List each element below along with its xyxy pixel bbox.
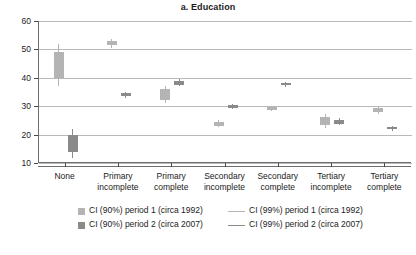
x-axis-tick-label: None: [38, 171, 91, 182]
x-axis-tick: [225, 163, 226, 167]
data-marker: [54, 21, 64, 163]
x-axis-tick: [118, 163, 119, 167]
y-axis-tick: [34, 135, 38, 136]
y-axis-tick: [34, 21, 38, 22]
y-axis-tick-label: 50: [11, 44, 31, 54]
gridline: [39, 78, 412, 79]
ci90-box: [107, 41, 117, 46]
data-marker: [228, 21, 238, 163]
x-axis-tick: [384, 163, 385, 167]
y-axis-tick-label: 30: [11, 101, 31, 111]
ci90-box: [68, 135, 78, 152]
gridline: [39, 21, 412, 22]
x-axis-tick-label: Tertiary complete: [358, 171, 411, 193]
legend-row: CI (90%) period 1 (circa 1992)CI (99%) p…: [0, 205, 416, 219]
data-marker: [334, 21, 344, 163]
x-axis-tick-label: Primary complete: [145, 171, 198, 193]
data-marker: [320, 21, 330, 163]
chart-title: a. Education: [0, 2, 416, 12]
x-axis-tick: [65, 163, 66, 167]
legend-label: CI (90%) period 2 (circa 2007): [89, 219, 203, 229]
ci90-box: [121, 93, 131, 96]
data-marker: [214, 21, 224, 163]
data-marker: [267, 21, 277, 163]
ci90-box: [281, 83, 291, 85]
data-marker: [373, 21, 383, 163]
plot-area: [38, 21, 411, 163]
ci90-box: [214, 122, 224, 126]
legend-label: CI (90%) period 1 (circa 1992): [89, 205, 203, 215]
x-axis-tick: [278, 163, 279, 167]
legend-swatch-icon: [78, 222, 85, 229]
data-marker: [174, 21, 184, 163]
y-axis-tick: [34, 163, 38, 164]
legend-swatch-icon: [78, 208, 85, 215]
y-axis-tick-label: 10: [11, 158, 31, 168]
legend-row: CI (90%) period 2 (circa 2007)CI (99%) p…: [0, 219, 416, 233]
x-axis-tick-label: Tertiary incomplete: [304, 171, 357, 193]
ci90-box: [160, 89, 170, 100]
ci90-box: [320, 117, 330, 125]
y-axis-tick: [34, 49, 38, 50]
data-marker: [68, 21, 78, 163]
ci90-box: [373, 108, 383, 112]
ci90-box: [334, 120, 344, 124]
gridline: [39, 135, 412, 136]
x-axis-tick: [171, 163, 172, 167]
y-axis-tick-label: 20: [11, 130, 31, 140]
y-axis-tick-label: 40: [11, 73, 31, 83]
y-axis-tick-label: 60: [11, 16, 31, 26]
gridline: [39, 106, 412, 107]
ci90-box: [267, 107, 277, 110]
data-marker: [107, 21, 117, 163]
x-axis-tick-label: Primary incomplete: [91, 171, 144, 193]
legend-line-icon: [228, 225, 245, 226]
x-axis-tick-label: Secondary complete: [251, 171, 304, 193]
ci90-box: [387, 127, 397, 129]
legend-label: CI (99%) period 2 (circa 2007): [249, 219, 363, 229]
data-marker: [387, 21, 397, 163]
chart-figure: a. Education Percent 102030405060 NonePr…: [0, 0, 416, 255]
ci90-box: [174, 81, 184, 85]
chart-legend: CI (90%) period 1 (circa 1992)CI (99%) p…: [0, 205, 416, 233]
y-axis-tick: [34, 106, 38, 107]
x-axis-tick: [331, 163, 332, 167]
data-marker: [281, 21, 291, 163]
ci90-box: [54, 52, 64, 78]
legend-label: CI (99%) period 1 (circa 1992): [249, 205, 363, 215]
x-axis-tick-label: Secondary incomplete: [198, 171, 251, 193]
data-marker: [121, 21, 131, 163]
data-marker: [160, 21, 170, 163]
y-axis-tick: [34, 78, 38, 79]
ci90-box: [228, 105, 238, 108]
legend-line-icon: [228, 211, 245, 212]
gridline: [39, 49, 412, 50]
